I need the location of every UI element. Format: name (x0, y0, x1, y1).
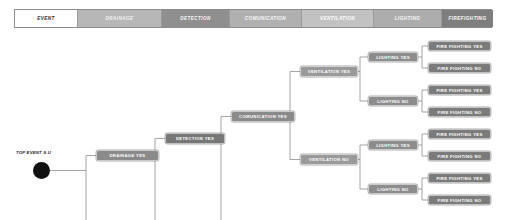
tree-node-comunication-yes[interactable]: COMUNICATION YES (231, 111, 295, 122)
tree-node-label: FIRE FIGHTING YES (436, 132, 482, 137)
tree-node-detection-yes[interactable]: DETECTION YES (165, 133, 225, 144)
tree-node-label: DETECTION YES (176, 136, 214, 141)
tree-node-ff-6[interactable]: FIRE FIGHTING NO (428, 151, 491, 161)
top-event-label: TOP EVENT S.U (16, 150, 51, 155)
tree-node-label: LIGHTING YES (376, 143, 410, 148)
tree-node-ff-7[interactable]: FIRE FIGHTING YES (428, 173, 491, 183)
tree-node-lighting-no-2[interactable]: LIGHTING NO (368, 184, 418, 194)
tree-node-label: VENTILATION YES (308, 69, 350, 74)
tree-node-label: FIRE FIGHTING NO (438, 110, 482, 115)
tree-node-label: FIRE FIGHTING YES (436, 44, 482, 49)
tree-node-ventilation-no[interactable]: VENTILATION NO (300, 154, 358, 165)
event-tree-diagram: EVENTDRAINAGEDETECTIONCOMUNICATIONVENTIL… (0, 0, 506, 220)
tree-node-label: FIRE FIGHTING NO (438, 154, 482, 159)
tree-node-ff-8[interactable]: FIRE FIGHTING NO (428, 195, 491, 205)
tree-node-drainage-yes[interactable]: DRAINAGE YES (96, 150, 159, 161)
tree-node-ff-5[interactable]: FIRE FIGHTING YES (428, 129, 491, 139)
tree-node-ventilation-yes[interactable]: VENTILATION YES (300, 66, 358, 77)
tree-node-label: LIGHTING YES (376, 55, 410, 60)
tree-node-label: FIRE FIGHTING NO (438, 66, 482, 71)
tree-node-label: LIGHTING NO (377, 187, 408, 192)
tree-node-label: DRAINAGE YES (109, 153, 145, 158)
tree-node-label: FIRE FIGHTING YES (436, 88, 482, 93)
tree-node-label: COMUNICATION YES (239, 114, 287, 119)
tree-node-label: FIRE FIGHTING NO (438, 198, 482, 203)
tree-node-label: VENTILATION NO (309, 157, 349, 162)
tree-node-ff-4[interactable]: FIRE FIGHTING NO (428, 107, 491, 117)
tree-node-lighting-yes-2[interactable]: LIGHTING YES (368, 140, 418, 150)
tree-node-lighting-no-1[interactable]: LIGHTING NO (368, 96, 418, 106)
tree-node-label: LIGHTING NO (377, 99, 408, 104)
tree-node-ff-2[interactable]: FIRE FIGHTING NO (428, 63, 491, 73)
tree-node-ff-3[interactable]: FIRE FIGHTING YES (428, 85, 491, 95)
top-event-node[interactable] (33, 162, 50, 179)
tree-node-lighting-yes-1[interactable]: LIGHTING YES (368, 52, 418, 62)
tree-node-label: FIRE FIGHTING YES (436, 176, 482, 181)
tree-node-ff-1[interactable]: FIRE FIGHTING YES (428, 41, 491, 51)
